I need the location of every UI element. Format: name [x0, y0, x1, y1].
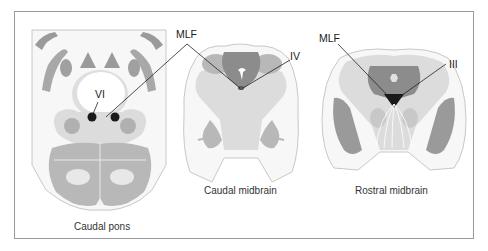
label-mlf-shared: MLF	[176, 29, 197, 40]
label-mlf-rostral: MLF	[319, 33, 340, 44]
caudal-midbrain-section	[184, 44, 299, 182]
caudal-pons-section	[32, 30, 166, 210]
brainstem-diagram	[0, 0, 488, 251]
caption-rostral-midbrain: Rostral midbrain	[355, 186, 428, 196]
caption-caudal-pons: Caudal pons	[74, 222, 130, 232]
rostral-midbrain-section	[322, 49, 466, 170]
label-iii: III	[449, 59, 458, 70]
label-iv: IV	[290, 51, 300, 62]
label-vi: VI	[95, 89, 105, 100]
caption-caudal-midbrain: Caudal midbrain	[204, 186, 277, 196]
